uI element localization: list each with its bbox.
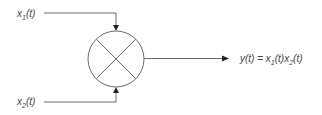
- input-x2-wire: [44, 91, 116, 102]
- input-x1-wire: [44, 13, 116, 27]
- multiplier-diagram: x1(t) x2(t) y(t) = x1(t)x2(t): [0, 0, 322, 115]
- input-x2-arrow-icon: [113, 87, 119, 93]
- multiplier-block: [88, 31, 144, 87]
- input-x1-label: x1(t): [16, 8, 35, 21]
- input-x1-arrow-icon: [113, 25, 119, 31]
- output-arrow-icon: [222, 56, 229, 62]
- output-label: y(t) = x1(t)x2(t): [239, 53, 303, 66]
- input-x2-label: x2(t): [16, 96, 35, 109]
